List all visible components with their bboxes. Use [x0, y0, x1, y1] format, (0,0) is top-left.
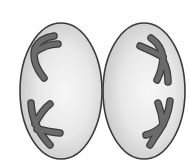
diagram-canvas	[0, 0, 189, 165]
right-cell	[103, 23, 185, 159]
cell-division-diagram	[0, 0, 189, 165]
